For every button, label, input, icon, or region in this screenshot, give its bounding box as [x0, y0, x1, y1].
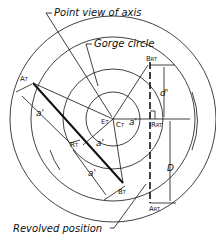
point-e: ET	[101, 118, 109, 126]
point-c: CT	[116, 121, 125, 129]
point-art: ART	[149, 205, 161, 213]
dim-d: D	[167, 163, 174, 173]
dim-a-prime-inner: a'	[96, 138, 104, 148]
label-point-view-of-axis: Point view of axis	[54, 7, 141, 18]
line-ab	[33, 83, 123, 183]
point-a: AT	[20, 75, 29, 83]
dim-a-prime-lower: a'	[88, 168, 96, 178]
point-rrt: RRT	[151, 121, 163, 129]
point-r: RT	[70, 141, 79, 149]
label-revolved-position: Revolved position	[13, 223, 102, 234]
dim-a-prime-left: a'	[36, 108, 44, 118]
point-brt: BRT	[146, 55, 158, 63]
leader-gorge	[86, 44, 98, 86]
label-gorge-circle: Gorge circle	[94, 38, 154, 49]
leader-point-view	[46, 13, 112, 117]
dim-a-prime-center: a'	[129, 117, 137, 127]
leader-revolved	[110, 184, 146, 228]
point-b: BT	[118, 188, 127, 196]
diagram-canvas: Point view of axis Gorge circle Revolved…	[0, 0, 216, 240]
dim-d-prime: d'	[160, 88, 168, 98]
